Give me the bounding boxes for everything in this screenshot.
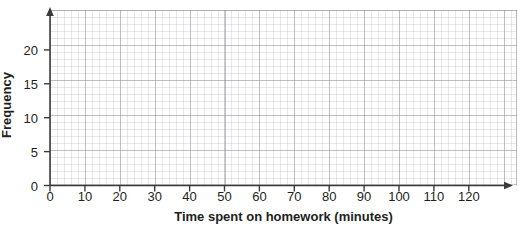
y-axis-ticks xyxy=(44,50,50,186)
y-axis-arrowhead xyxy=(46,7,54,16)
y-tick-label-0: 0 xyxy=(31,179,38,192)
x-tick-label-0: 0 xyxy=(46,190,53,203)
x-tick-label-110: 110 xyxy=(424,190,445,203)
x-tick-label-90: 90 xyxy=(357,190,371,203)
x-tick-label-20: 20 xyxy=(113,190,127,203)
x-tick-label-40: 40 xyxy=(182,190,196,203)
y-axis-title: Frequency xyxy=(0,72,13,138)
y-tick-label-20: 20 xyxy=(24,43,38,56)
x-tick-label-30: 30 xyxy=(147,190,161,203)
x-axis-arrowhead xyxy=(504,182,513,190)
x-tick-label-50: 50 xyxy=(217,190,231,203)
x-axis-title: Time spent on homework (minutes) xyxy=(50,210,517,223)
x-tick-label-60: 60 xyxy=(252,190,266,203)
x-tick-label-120: 120 xyxy=(458,190,480,203)
x-tick-label-80: 80 xyxy=(322,190,336,203)
frequency-chart: 0 5 10 15 20 0 10 20 30 40 50 60 70 80 9… xyxy=(0,0,531,234)
y-tick-label-5: 5 xyxy=(31,145,38,158)
y-tick-label-15: 15 xyxy=(24,77,38,90)
y-tick-label-10: 10 xyxy=(24,111,38,124)
x-tick-label-10: 10 xyxy=(78,190,92,203)
x-tick-label-100: 100 xyxy=(388,190,410,203)
x-tick-label-70: 70 xyxy=(287,190,301,203)
